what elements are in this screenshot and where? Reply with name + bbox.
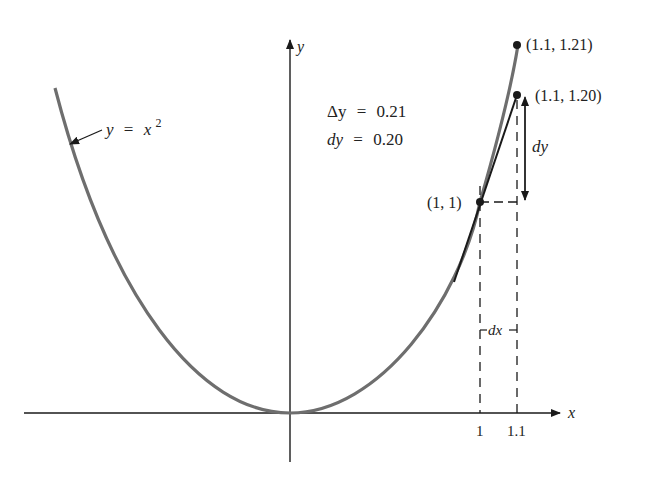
- point-label-1-1: (1, 1): [427, 194, 462, 212]
- x-tick-11: 1.1: [507, 423, 526, 439]
- dy-annotation: dy = 0.20: [327, 130, 403, 149]
- point-11-120: [513, 91, 521, 99]
- point-label-11-121: (1.1, 1.21): [526, 36, 593, 54]
- point-label-11-120: (1.1, 1.20): [535, 87, 602, 105]
- curve-label-arrow: [70, 130, 102, 144]
- parabola-curve: [55, 45, 518, 413]
- curve-label-exp: 2: [155, 116, 161, 130]
- tangent-line: [454, 95, 517, 282]
- point-11-121: [513, 41, 521, 49]
- diagram-canvas: y = x 2 y x Δy = 0.21 dy = 0.20 (1, 1) (…: [0, 0, 645, 479]
- curve-label-lhs: y: [104, 120, 114, 139]
- curve-label-base: x: [143, 120, 152, 139]
- y-axis-label: y: [295, 38, 305, 56]
- derivative-differential-diagram: y = x 2 y x Δy = 0.21 dy = 0.20 (1, 1) (…: [0, 0, 645, 479]
- point-1-1: [476, 198, 484, 206]
- delta-y-annotation: Δy = 0.21: [327, 102, 406, 121]
- dx-label: dx: [488, 322, 503, 338]
- x-axis-label: x: [567, 404, 575, 421]
- dy-arrow-label: dy: [532, 137, 549, 156]
- svg-text:y = x 2: y = x 2: [104, 116, 161, 139]
- curve-label-eq: =: [124, 120, 134, 139]
- x-tick-1: 1: [476, 423, 484, 439]
